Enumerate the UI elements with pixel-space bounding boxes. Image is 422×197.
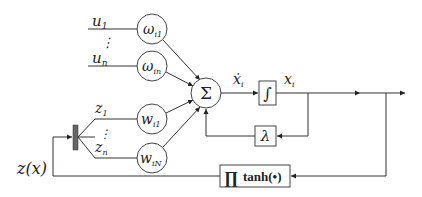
lambda-symbol: λ xyxy=(260,127,271,145)
dots-u: ⋮ xyxy=(101,35,114,50)
mux-bar xyxy=(73,125,78,150)
label-un: un xyxy=(92,49,108,68)
edge-omega-in-to-sum xyxy=(166,72,193,86)
product-symbol: ∏ xyxy=(224,168,238,187)
edge-w-i1-to-sum xyxy=(166,100,193,113)
label-xdot: ẋi xyxy=(233,71,244,89)
tanh-label: tanh(•) xyxy=(243,169,282,184)
label-u1: u1 xyxy=(92,12,107,31)
sigma-symbol: Σ xyxy=(200,83,212,103)
z1-branch xyxy=(78,119,95,137)
neuron-diagram: u1 ⋮ un ωi1 ωin z1 ⋮ zn wi1 wiN Σ ẋi ∫ x… xyxy=(0,0,422,197)
label-zx: z(x) xyxy=(16,159,47,178)
integral-symbol: ∫ xyxy=(263,84,271,103)
edge-w-iN-to-sum xyxy=(163,107,200,147)
label-z1: z1 xyxy=(94,100,107,118)
label-x: xi xyxy=(284,71,295,89)
label-zn: zn xyxy=(94,139,108,157)
zn-branch xyxy=(78,137,95,158)
edge-omega-i1-to-sum xyxy=(163,40,200,80)
